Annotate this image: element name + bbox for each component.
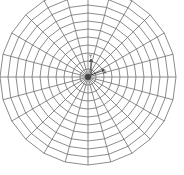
polar-mesh-diagram: Y X	[0, 0, 184, 175]
mesh-spoke	[88, 77, 150, 139]
mesh-spoke	[12, 33, 88, 77]
mesh-spoke	[88, 33, 164, 77]
mesh-spoke	[88, 1, 132, 77]
mesh-spoke	[88, 77, 164, 121]
mesh-center-dense-region	[85, 74, 91, 80]
mesh-spoke	[88, 15, 150, 77]
mesh-spoke	[12, 77, 88, 121]
mesh-spoke	[44, 1, 88, 77]
mesh-spoke	[3, 54, 88, 77]
mesh-spoke	[26, 77, 88, 139]
mesh-spoke	[88, 54, 173, 77]
mesh-spoke	[44, 77, 88, 153]
mesh-spoke	[65, 77, 88, 162]
mesh-spokes	[0, 0, 176, 165]
mesh-spoke	[88, 77, 132, 153]
mesh-spoke	[26, 15, 88, 77]
mesh-spoke	[88, 77, 173, 100]
mesh-spoke	[3, 77, 88, 100]
mesh-spoke	[88, 77, 111, 162]
x-axis-label: X	[103, 69, 107, 75]
